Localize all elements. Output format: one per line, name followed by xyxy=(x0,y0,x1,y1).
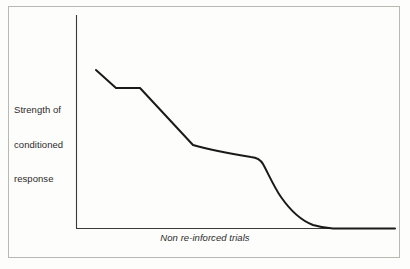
y-axis-label-line-3: response xyxy=(14,173,63,185)
extinction-curve-line xyxy=(96,70,395,229)
x-axis-label: Non re-inforced trials xyxy=(0,232,410,244)
y-axis-label-line-1: Strength of xyxy=(14,104,63,116)
extinction-curve-figure: Strength of conditioned response Non re-… xyxy=(0,0,410,269)
y-axis-label-line-2: conditioned xyxy=(14,139,63,151)
y-axis-label: Strength of conditioned response xyxy=(14,81,63,208)
